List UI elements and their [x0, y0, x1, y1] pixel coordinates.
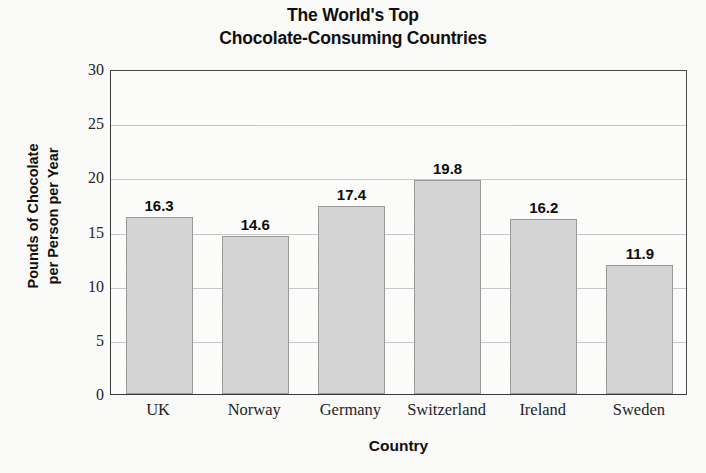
bar — [222, 236, 289, 394]
plot-area: 16.314.617.419.816.211.9 — [110, 70, 687, 395]
y-axis-tick-label: 20 — [64, 170, 104, 186]
gridline — [111, 288, 686, 289]
y-axis-tick-label: 5 — [64, 333, 104, 349]
y-axis-tick-label: 15 — [64, 225, 104, 241]
bar — [510, 219, 577, 395]
y-axis-tick-label: 10 — [64, 279, 104, 295]
gridline — [111, 342, 686, 343]
y-axis-title-line-1: Pounds of Chocolate — [23, 91, 43, 341]
bar — [606, 265, 673, 394]
y-axis-tick-label: 25 — [64, 116, 104, 132]
bar — [126, 217, 193, 394]
bar — [414, 180, 481, 395]
y-axis-tick-label: 30 — [64, 62, 104, 78]
gridline — [111, 179, 686, 180]
bar-value-label: 11.9 — [600, 245, 680, 262]
bar-value-label: 14.6 — [215, 216, 295, 233]
y-axis-title: Pounds of Chocolate per Person per Year — [23, 91, 63, 341]
x-axis-tick-label: Sweden — [579, 400, 699, 420]
chart-title: The World's Top Chocolate-Consuming Coun… — [0, 4, 706, 50]
bar-value-label: 19.8 — [408, 160, 488, 177]
x-axis-title: Country — [110, 437, 687, 455]
bar-value-label: 16.2 — [504, 199, 584, 216]
chart-title-line-2: Chocolate-Consuming Countries — [0, 27, 706, 50]
chart-page: The World's Top Chocolate-Consuming Coun… — [0, 0, 706, 473]
bar-value-label: 17.4 — [311, 186, 391, 203]
bar — [318, 206, 385, 395]
chart-title-line-1: The World's Top — [0, 4, 706, 27]
gridline — [111, 234, 686, 235]
bar-value-label: 16.3 — [119, 197, 199, 214]
gridline — [111, 125, 686, 126]
y-axis-title-line-2: per Person per Year — [43, 91, 63, 341]
